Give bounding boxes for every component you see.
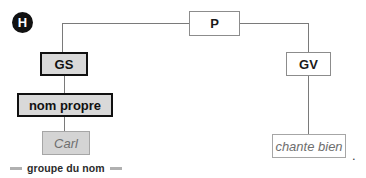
connector-p-to-gs-horizontal bbox=[62, 23, 190, 24]
connector-nom-propre-to-carl bbox=[64, 116, 65, 132]
node-chante-bien[interactable]: chante bien bbox=[272, 134, 346, 158]
syntax-tree-figure: H P GS nom propre Carl GV chante bien . … bbox=[0, 0, 366, 178]
connector-p-to-gs-vertical bbox=[62, 23, 63, 53]
connector-p-to-gv-vertical bbox=[308, 23, 309, 53]
node-p[interactable]: P bbox=[189, 11, 240, 36]
node-gs[interactable]: GS bbox=[40, 52, 88, 76]
connector-gv-to-chante-bien bbox=[308, 75, 309, 135]
sentence-period: . bbox=[352, 149, 356, 162]
connector-p-to-gv-horizontal bbox=[239, 23, 309, 24]
connector-gs-to-nom-propre bbox=[64, 75, 65, 94]
node-carl[interactable]: Carl bbox=[42, 131, 90, 155]
node-nom-propre[interactable]: nom propre bbox=[17, 93, 113, 117]
caption-dash-left-icon bbox=[10, 167, 22, 170]
figure-label-badge: H bbox=[12, 12, 33, 33]
caption-label: groupe du nom bbox=[27, 162, 105, 174]
node-gv[interactable]: GV bbox=[286, 52, 331, 76]
caption-dash-right-icon bbox=[110, 167, 122, 170]
caption-group-du-nom: groupe du nom bbox=[10, 162, 122, 174]
